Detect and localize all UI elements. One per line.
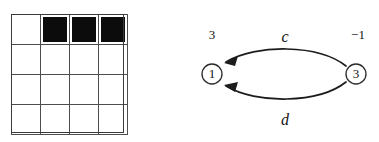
- node-1-weight: 3: [209, 27, 216, 42]
- grid-cell-r3c4: [99, 75, 128, 105]
- grid-figure: [11, 14, 124, 133]
- grid-cell-r4c3: [70, 105, 99, 135]
- node-3-weight: −1: [351, 27, 365, 42]
- grid-cell-r2c1: [12, 45, 41, 75]
- node-1-label: 1: [209, 66, 216, 81]
- grid-cell-r3c1: [12, 75, 41, 105]
- grid-row: [12, 45, 128, 75]
- grid-row: [12, 75, 128, 105]
- grid-cell-r3c2: [41, 75, 70, 105]
- grid-row: [12, 105, 128, 135]
- edge-c-path: [226, 49, 346, 66]
- grid-cell-r4c1: [12, 105, 41, 135]
- grid-table: [11, 14, 128, 135]
- figure-root: 1 3 3 −1 c d: [0, 0, 379, 142]
- grid-cell-r2c2: [41, 45, 70, 75]
- grid-cell-r1c4: [99, 15, 128, 45]
- edge-d-path: [226, 82, 346, 99]
- grid-cell-r1c3: [70, 15, 99, 45]
- grid-cell-r4c4: [99, 105, 128, 135]
- graph-diagram: 1 3 3 −1 c d: [190, 0, 379, 142]
- grid-row: [12, 15, 128, 45]
- node-3-label: 3: [353, 66, 360, 81]
- grid-cell-r2c3: [70, 45, 99, 75]
- edge-c-label: c: [281, 28, 288, 45]
- grid-cell-r4c2: [41, 105, 70, 135]
- grid-cell-r3c3: [70, 75, 99, 105]
- graph-figure: 1 3 3 −1 c d: [190, 0, 379, 142]
- grid-cell-r1c1: [12, 15, 41, 45]
- grid-cell-r2c4: [99, 45, 128, 75]
- grid-cell-r1c2: [41, 15, 70, 45]
- edge-d-label: d: [281, 111, 290, 128]
